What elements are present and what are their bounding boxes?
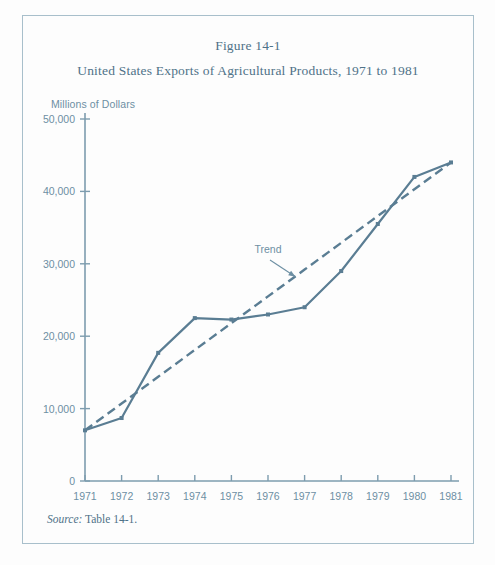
source-note: Source: Table 14-1. [47,513,137,525]
x-tick-label: 1973 [147,490,171,502]
x-tick-label: 1977 [293,490,317,502]
data-point-marker [193,316,197,320]
x-tick-label: 1981 [439,490,463,502]
x-tick-label: 1974 [183,490,207,502]
data-point-marker [156,351,160,355]
y-tick-label: 50,000 [43,113,75,125]
source-label: Source: [47,513,82,525]
x-axis-ticks: 1971197219731974197519761977197819791980… [73,475,463,502]
data-point-marker [303,305,307,309]
x-tick-label: 1979 [366,490,390,502]
y-tick-label: 30,000 [43,258,75,270]
trend-annotation: Trend [254,243,295,277]
trend-annotation-arrowhead [288,271,295,277]
line-chart: 010,00020,00030,00040,00050,000 19711972… [23,16,475,545]
data-point-marker [376,222,380,226]
data-point-marker [412,175,416,179]
y-tick-label: 0 [69,475,75,487]
x-tick-label: 1975 [220,490,244,502]
y-tick-label: 10,000 [43,403,75,415]
y-axis-ticks: 010,00020,00030,00040,00050,000 [43,113,90,487]
y-tick-label: 20,000 [43,330,75,342]
x-tick-label: 1978 [330,490,354,502]
data-point-marker [449,160,453,164]
x-tick-label: 1972 [110,490,134,502]
source-value: Table 14-1. [85,513,137,525]
x-tick-label: 1971 [73,490,97,502]
trend-series-line [85,162,451,430]
x-tick-label: 1980 [403,490,427,502]
y-tick-label: 40,000 [43,185,75,197]
data-point-marker [266,312,270,316]
data-point-marker [83,428,87,432]
figure-frame: Figure 14-1 United States Exports of Agr… [22,15,474,544]
data-point-marker [120,416,124,420]
x-tick-label: 1976 [256,490,280,502]
trend-annotation-label: Trend [254,243,281,255]
data-point-marker [339,269,343,273]
data-point-marker [229,318,233,322]
